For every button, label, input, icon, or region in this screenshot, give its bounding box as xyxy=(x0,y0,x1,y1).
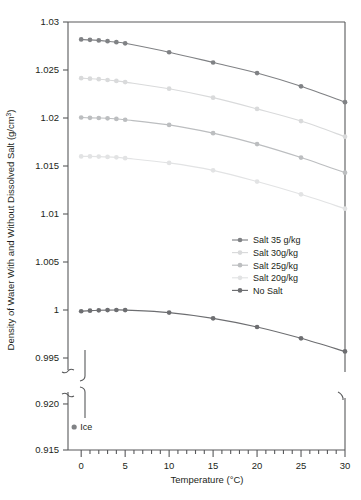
data-point xyxy=(167,161,172,166)
data-point xyxy=(105,308,110,313)
upper-y-tick-label: 1.03 xyxy=(41,16,60,27)
x-tick-label: 25 xyxy=(296,460,307,471)
upper-series-group xyxy=(79,37,348,354)
data-point xyxy=(123,308,128,313)
data-point xyxy=(105,155,110,160)
lower-y-tick-label: 0.920 xyxy=(35,398,59,409)
series-line xyxy=(81,118,345,173)
upper-y-tick-group: 0.99511.0051.011.0151.021.0251.03 xyxy=(35,16,68,363)
x-tick-label: 20 xyxy=(252,460,263,471)
legend-item-salt-35-g-kg: Salt 35 g/kg xyxy=(232,235,301,245)
data-point xyxy=(79,76,84,81)
chart-root: 0.99511.0051.011.0151.021.0251.03 0.9150… xyxy=(0,0,361,500)
legend-label: Salt 35 g/kg xyxy=(253,235,301,245)
data-point xyxy=(79,309,84,314)
series-salt-30g-kg xyxy=(79,76,348,139)
series-salt-20g-kg xyxy=(79,154,348,211)
x-axis-title: Temperature (°C) xyxy=(171,474,244,485)
data-point xyxy=(105,116,110,121)
ice-data-point-group: Ice xyxy=(72,422,93,432)
legend-label: Salt 25g/kg xyxy=(253,261,298,271)
x-tick-label: 5 xyxy=(123,460,128,471)
data-point xyxy=(211,168,216,173)
data-point xyxy=(343,134,348,139)
data-point xyxy=(255,179,260,184)
ice-data-point xyxy=(72,424,77,429)
data-point xyxy=(123,80,128,85)
legend-swatch-marker xyxy=(238,263,243,268)
upper-y-tick-label: 1.02 xyxy=(41,112,60,123)
upper-y-tick-label: 1.015 xyxy=(35,160,59,171)
data-point xyxy=(96,154,101,159)
data-point xyxy=(299,155,304,160)
data-point xyxy=(211,60,216,65)
data-point xyxy=(167,86,172,91)
y-axis-title-group: Density of Water With and Without Dissol… xyxy=(5,110,16,351)
upper-y-tick-label: 1.01 xyxy=(41,208,60,219)
data-point xyxy=(96,116,101,121)
upper-y-tick-label: 0.995 xyxy=(35,352,59,363)
data-point xyxy=(167,50,172,55)
data-point xyxy=(114,40,119,45)
data-point xyxy=(255,107,260,112)
data-point xyxy=(88,38,93,43)
data-point xyxy=(114,155,119,160)
legend-label: Salt 30g/kg xyxy=(253,248,298,258)
data-point xyxy=(88,308,93,313)
data-point xyxy=(255,71,260,76)
legend-item-salt-30g-kg: Salt 30g/kg xyxy=(232,248,298,258)
lower-axis-break-hook-right xyxy=(338,392,343,400)
data-point xyxy=(114,79,119,84)
data-point xyxy=(211,95,216,100)
upper-axis-break-hook xyxy=(80,350,85,381)
data-point xyxy=(96,77,101,82)
data-point xyxy=(299,84,304,89)
data-point xyxy=(255,142,260,147)
data-point xyxy=(88,76,93,81)
data-point xyxy=(343,206,348,211)
data-point xyxy=(88,115,93,120)
legend-label: Salt 20g/kg xyxy=(253,273,298,283)
data-point xyxy=(123,156,128,161)
legend-item-salt-25g-kg: Salt 25g/kg xyxy=(232,261,298,271)
legend-item-no-salt: No Salt xyxy=(232,286,283,296)
upper-panel: 0.99511.0051.011.0151.021.0251.03 xyxy=(35,16,347,381)
legend-label: No Salt xyxy=(253,286,283,296)
data-point xyxy=(79,37,84,42)
x-tick-label: 10 xyxy=(164,460,175,471)
legend-item-salt-20g-kg: Salt 20g/kg xyxy=(232,273,298,283)
y-axis-title: Density of Water With and Without Dissol… xyxy=(5,110,16,351)
legend-swatch-marker xyxy=(238,250,243,255)
data-point xyxy=(167,310,172,315)
data-point xyxy=(114,117,119,122)
series-line xyxy=(81,156,345,208)
series-salt-35-g-kg xyxy=(79,37,348,104)
data-point xyxy=(96,38,101,43)
data-point xyxy=(79,154,84,159)
data-point xyxy=(96,308,101,313)
data-point xyxy=(343,100,348,105)
x-tick-label: 30 xyxy=(340,460,351,471)
series-line xyxy=(81,39,345,102)
upper-y-tick-label: 1.025 xyxy=(35,64,59,75)
data-point xyxy=(211,131,216,136)
lower-axis-break-hook-left xyxy=(80,387,85,418)
legend-swatch-marker xyxy=(238,275,243,280)
data-point xyxy=(105,39,110,44)
legend-swatch-marker xyxy=(238,288,243,293)
data-point xyxy=(167,123,172,128)
series-salt-25g-kg xyxy=(79,115,348,175)
data-point xyxy=(211,316,216,321)
data-point xyxy=(299,336,304,341)
data-point xyxy=(299,119,304,124)
density-vs-temperature-chart: 0.99511.0051.011.0151.021.0251.03 0.9150… xyxy=(0,0,361,500)
data-point xyxy=(88,154,93,159)
x-tick-label: 15 xyxy=(208,460,219,471)
series-line xyxy=(81,78,345,137)
data-point xyxy=(114,308,119,313)
data-point xyxy=(123,41,128,46)
lower-y-tick-group: 0.9150.920 xyxy=(35,398,68,455)
legend-swatch-marker xyxy=(238,238,243,243)
data-point xyxy=(123,117,128,122)
x-tick-group: 051015202530 xyxy=(79,450,351,471)
